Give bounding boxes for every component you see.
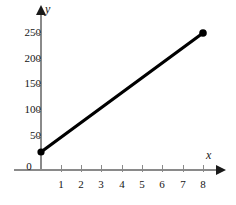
- data-series-plot: [0, 0, 236, 205]
- data-line-segment: [41, 33, 203, 152]
- line-chart-figure: y x 0 250 200 150 100 50 1 2 3 4 5 6 7 8: [0, 0, 236, 205]
- data-point-marker: [37, 148, 44, 155]
- data-point-marker: [199, 29, 207, 37]
